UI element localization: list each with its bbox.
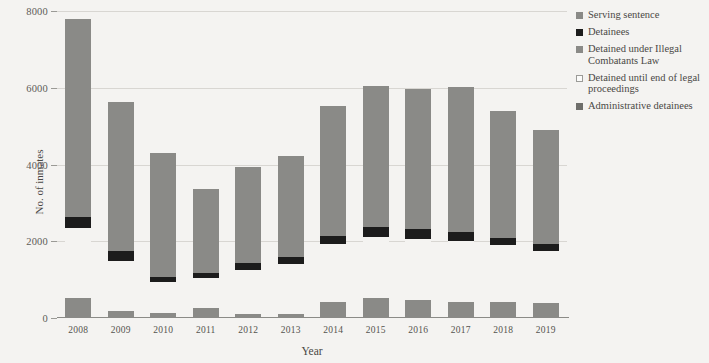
bar-segment — [278, 156, 304, 257]
bar-segment — [235, 167, 261, 263]
x-tick-label: 2013 — [281, 325, 301, 335]
bar-segment — [405, 239, 431, 300]
legend-item[interactable]: Serving sentence — [576, 9, 704, 21]
bar-segment — [150, 282, 176, 312]
bar-segment — [533, 244, 559, 251]
y-tick-label: 2000 — [26, 236, 48, 247]
bar-series-container: 2008200920102011201220132014201520162017… — [57, 11, 567, 318]
plot-area: 02000400060008000 2008200920102011201220… — [57, 11, 567, 318]
bar-segment — [490, 245, 516, 301]
bar-segment — [235, 270, 261, 314]
legend-square-black-icon — [576, 29, 583, 36]
bar-group[interactable]: 2012 — [235, 11, 261, 318]
y-tick-label: 4000 — [26, 159, 48, 170]
bar-segment — [533, 130, 559, 244]
legend-label: Detained under Illegal Combatants Law — [588, 43, 704, 66]
bar-group[interactable]: 2018 — [490, 11, 516, 318]
legend-square-gray-icon — [576, 12, 583, 19]
x-tick-label: 2014 — [323, 325, 343, 335]
y-tick-label: 6000 — [26, 82, 48, 93]
bar-group[interactable]: 2011 — [193, 11, 219, 318]
bar-segment — [235, 314, 261, 318]
bar-segment — [193, 278, 219, 308]
bar-segment — [65, 19, 91, 217]
x-tick-label: 2018 — [493, 325, 513, 335]
bar-segment — [533, 303, 559, 318]
legend-square-darkgray-icon — [576, 103, 583, 110]
legend-label: Administrative detainees — [588, 100, 693, 112]
bar-segment — [193, 308, 219, 318]
bar-segment — [405, 89, 431, 229]
bar-segment — [320, 106, 346, 235]
bar-group[interactable]: 2013 — [278, 11, 304, 318]
legend-label: Detained until end of legal proceedings — [588, 72, 704, 95]
legend-square-gray-icon — [576, 46, 583, 53]
bar-segment — [448, 302, 474, 318]
bar-segment — [278, 257, 304, 264]
bar-chart: No. of inmates 02000400060008000 2008200… — [0, 0, 709, 363]
legend-item[interactable]: Detained until end of legal proceedings — [576, 72, 704, 95]
bar-segment — [320, 244, 346, 301]
bar-group[interactable]: 2014 — [320, 11, 346, 318]
bar-group[interactable]: 2017 — [448, 11, 474, 318]
bar-segment — [108, 102, 134, 251]
bar-segment — [320, 302, 346, 319]
legend-item[interactable]: Detained under Illegal Combatants Law — [576, 43, 704, 66]
bar-segment — [150, 277, 176, 282]
bar-segment — [363, 298, 389, 318]
legend-item[interactable]: Detainees — [576, 26, 704, 38]
bar-segment — [363, 86, 389, 227]
x-tick-label: 2011 — [196, 325, 215, 335]
bar-segment — [235, 263, 261, 270]
bar-group[interactable]: 2010 — [150, 11, 176, 318]
bar-segment — [65, 298, 91, 318]
legend-square-white-icon — [576, 75, 583, 82]
x-tick-label: 2010 — [153, 325, 173, 335]
bar-segment — [363, 227, 389, 237]
bar-segment — [490, 111, 516, 238]
legend: Serving sentenceDetaineesDetained under … — [576, 9, 704, 117]
bar-segment — [363, 237, 389, 297]
x-tick-label: 2017 — [451, 325, 471, 335]
bar-segment — [533, 251, 559, 303]
y-tick-label: 8000 — [26, 6, 48, 17]
x-tick-label: 2019 — [536, 325, 556, 335]
bar-segment — [193, 273, 219, 278]
bar-group[interactable]: 2008 — [65, 11, 91, 318]
bar-segment — [490, 238, 516, 245]
bar-segment — [150, 153, 176, 278]
bar-segment — [278, 264, 304, 315]
bar-segment — [108, 311, 134, 318]
x-tick-label: 2016 — [408, 325, 428, 335]
bar-segment — [65, 228, 91, 298]
x-tick-label: 2015 — [366, 325, 386, 335]
legend-label: Serving sentence — [588, 9, 659, 21]
bar-segment — [278, 314, 304, 318]
y-tick-label: 0 — [43, 313, 48, 324]
x-axis-label: Year — [57, 345, 567, 357]
x-tick-label: 2009 — [111, 325, 131, 335]
bar-segment — [448, 87, 474, 231]
bar-segment — [108, 261, 134, 311]
x-tick-label: 2008 — [68, 325, 88, 335]
bar-segment — [193, 189, 219, 273]
y-tick-mark — [51, 318, 57, 319]
bar-segment — [150, 313, 176, 318]
bar-segment — [405, 229, 431, 239]
bar-segment — [448, 232, 474, 242]
legend-item[interactable]: Administrative detainees — [576, 100, 704, 112]
bar-segment — [490, 302, 516, 319]
bar-group[interactable]: 2016 — [405, 11, 431, 318]
bar-group[interactable]: 2019 — [533, 11, 559, 318]
x-tick-label: 2012 — [238, 325, 258, 335]
bar-segment — [65, 217, 91, 228]
legend-label: Detainees — [588, 26, 629, 38]
bar-segment — [448, 241, 474, 302]
bar-segment — [320, 236, 346, 245]
bar-segment — [108, 251, 134, 261]
bar-group[interactable]: 2015 — [363, 11, 389, 318]
bar-group[interactable]: 2009 — [108, 11, 134, 318]
bar-segment — [405, 300, 431, 318]
